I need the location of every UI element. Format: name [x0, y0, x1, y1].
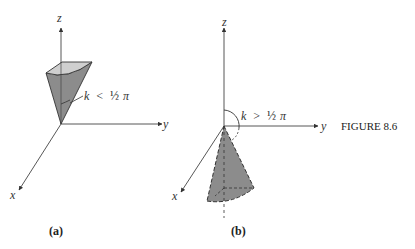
cone-b-side: [207, 126, 254, 202]
z-label-a: z: [56, 11, 62, 25]
x-label-a: x: [9, 188, 16, 202]
annotation-a: k < ½ π: [84, 86, 130, 103]
figure-label: FIGURE 8.6: [341, 120, 398, 132]
figure-canvas: z y x k < ½ π (a) z y x k: [0, 0, 415, 249]
x-axis-a: [19, 124, 61, 190]
y-label-a: y: [162, 117, 169, 131]
caption-a: (a): [49, 224, 63, 238]
caption-b: (b): [231, 224, 246, 238]
angle-arc-b: [224, 110, 239, 128]
z-label-b: z: [221, 15, 227, 29]
x-label-b: x: [171, 189, 178, 203]
y-label-b: y: [320, 119, 327, 133]
panel-b: z y x k > ½ π (b): [171, 15, 327, 238]
annotation-b: k > ½ π: [241, 106, 287, 123]
panel-a: z y x k < ½ π (a): [9, 11, 169, 238]
